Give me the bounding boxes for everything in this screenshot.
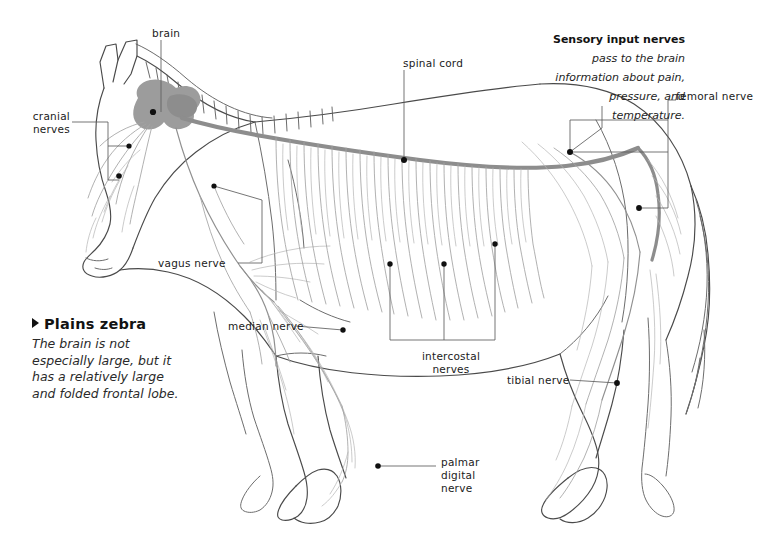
- triangle-right-icon: [32, 318, 39, 328]
- sensory-note-heading: Sensory input nerves: [553, 33, 685, 46]
- sensory-note-body: pass to the brain information about pain…: [555, 52, 685, 122]
- caption-title-row: Plains zebra: [32, 316, 197, 332]
- label-brain: brain: [152, 27, 222, 40]
- label-femoral-nerve: femoral nerve: [676, 90, 771, 103]
- caption-title: Plains zebra: [44, 316, 146, 332]
- caption-block: Plains zebra The brain is not especially…: [32, 316, 197, 402]
- label-cranial-nerves: cranial nerves: [8, 110, 70, 136]
- label-tibial-nerve: tibial nerve: [507, 374, 591, 387]
- label-palmar-digital-nerve: palmar digital nerve: [441, 456, 501, 495]
- figure-canvas: .body-outline{fill:none;stroke:#4a4a4a;s…: [0, 0, 775, 550]
- label-intercostal-nerves: intercostal nerves: [405, 350, 497, 376]
- label-median-nerve: median nerve: [228, 320, 320, 333]
- spinal-cord-lumbar: [638, 148, 659, 260]
- tail: [686, 186, 710, 414]
- anchor-dots: [116, 109, 642, 469]
- label-vagus-nerve: vagus nerve: [158, 257, 242, 270]
- caption-body: The brain is not especially large, but i…: [32, 336, 197, 402]
- label-spinal-cord: spinal cord: [403, 57, 483, 70]
- sensory-input-note: Sensory input nerves pass to the brain i…: [545, 28, 685, 123]
